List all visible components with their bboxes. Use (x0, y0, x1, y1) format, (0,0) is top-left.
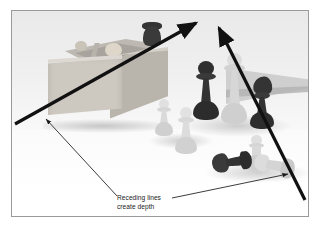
caption-line-2: create depth (117, 203, 177, 212)
caption-line-1: Receding lines (117, 194, 177, 203)
photo-scene (12, 11, 308, 216)
chess-piece-white-pawn-front (175, 107, 197, 155)
cardboard-box (47, 35, 169, 125)
piece-base (279, 157, 297, 179)
piece-stem (229, 70, 240, 106)
piece-base (155, 122, 173, 136)
chess-piece-dark-knight (250, 77, 274, 129)
piece-base (221, 103, 247, 124)
figure-root: Receding lines create depth (0, 0, 322, 238)
piece-base (175, 137, 197, 154)
piece-base (250, 112, 274, 129)
box-piece-head-b (75, 41, 87, 51)
caption: Receding lines create depth (117, 194, 177, 211)
photo-frame (11, 10, 309, 217)
chess-piece-white-pawn-left (155, 99, 173, 137)
piece-base (239, 150, 253, 169)
box-dark-piece (143, 26, 161, 46)
chess-piece-white-queen (221, 53, 247, 125)
